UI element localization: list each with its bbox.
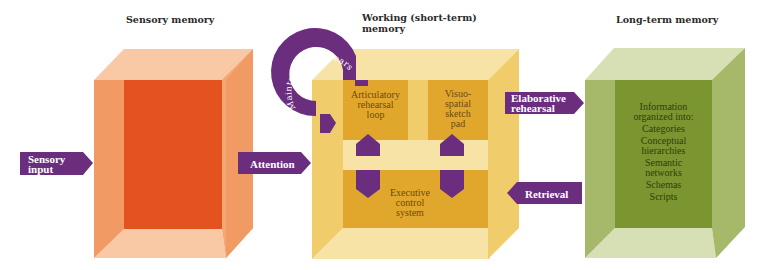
sensory-input-label: Sensory input (28, 154, 65, 174)
articulatory-line3: loop (343, 110, 408, 120)
lt-item-categories: Categories (615, 124, 712, 134)
visuospatial-line4: pad (428, 119, 488, 129)
elaborative-rehearsal-label: Elaborative rehearsal (511, 93, 566, 113)
lt-item-hierarchies: hierarchies (615, 146, 712, 156)
sensory-memory-box (94, 49, 253, 258)
long-term-memory-heading: Long-term memory (616, 14, 718, 25)
visuospatial-sketchpad-label: Visuo- spatial sketch pad (428, 89, 488, 129)
lt-item-scripts: Scripts (615, 192, 712, 202)
sensory-input-label-line2: input (28, 164, 65, 174)
retrieval-label: Retrieval (525, 189, 568, 199)
executive-line3: system (380, 208, 440, 218)
working-memory-heading: Working (short-term) memory (362, 12, 477, 34)
attention-label: Attention (250, 159, 295, 169)
long-term-contents: Information organized into: Categories C… (615, 102, 712, 202)
sensory-memory-heading: Sensory memory (126, 14, 214, 25)
working-memory-heading-line2: memory (362, 23, 477, 34)
elaborative-label-line2: rehearsal (511, 103, 566, 113)
executive-control-label: Executive control system (380, 188, 440, 218)
lt-item-schemas: Schemas (615, 180, 712, 190)
lt-item-networks: networks (615, 168, 712, 178)
working-memory-heading-line1: Working (short-term) (362, 12, 477, 23)
working-memory-box (312, 49, 519, 259)
articulatory-loop-label: Articulatory rehearsal loop (343, 90, 408, 120)
lt-intro-line2: organized into: (615, 112, 712, 122)
